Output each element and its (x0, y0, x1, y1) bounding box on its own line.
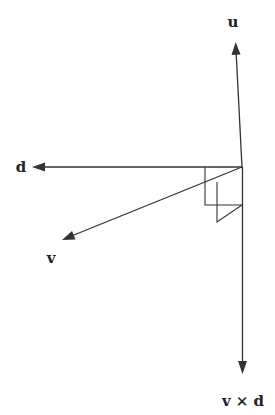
vector-v-arrowhead-icon (62, 231, 76, 240)
label-d: d (16, 158, 27, 176)
aux-line-inner (217, 182, 242, 222)
cross-product-diagram: u d v v × d (0, 0, 275, 415)
vector-u-line (236, 50, 242, 167)
vector-diagram-canvas: u d v v × d (0, 0, 275, 415)
vector-u-arrowhead-icon (232, 42, 241, 55)
vector-d-arrowhead-icon (32, 163, 45, 172)
vector-v-cross-d-arrowhead-icon (238, 361, 247, 374)
label-v-cross-d: v × d (221, 392, 265, 410)
aux-line-outer (205, 167, 242, 205)
label-v: v (46, 249, 57, 267)
vector-v-line (69, 167, 242, 237)
label-u: u (228, 13, 239, 31)
